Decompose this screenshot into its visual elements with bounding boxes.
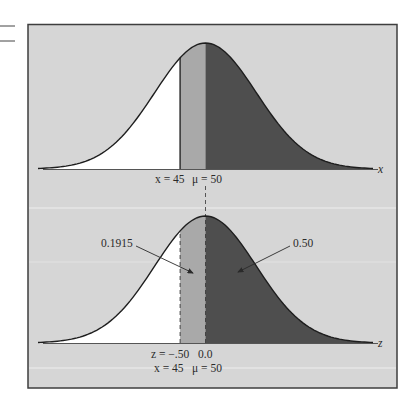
bottom-tick-label-x45: x = 45 [154, 362, 184, 374]
bottom-axis-label-z: z [377, 337, 383, 349]
top-tick-label-mu50: μ = 50 [192, 173, 222, 186]
top-tick-label-x45: x = 45 [155, 173, 185, 185]
top-middle-region [180, 43, 205, 169]
normal-distribution-figure: x x = 45 μ = 50 z z = −.50 0.0 x = 45 μ … [0, 0, 419, 411]
bottom-tick-label-mu50: μ = 50 [192, 362, 222, 375]
bottom-tick-label-z-neg050: z = −.50 [151, 348, 189, 360]
top-axis-label-x: x [377, 163, 384, 175]
bottom-middle-region [180, 216, 205, 343]
bottom-tick-label-z-0: 0.0 [198, 348, 213, 360]
annotation-label-01915: 0.1915 [101, 237, 133, 249]
annotation-label-050: 0.50 [293, 237, 313, 249]
